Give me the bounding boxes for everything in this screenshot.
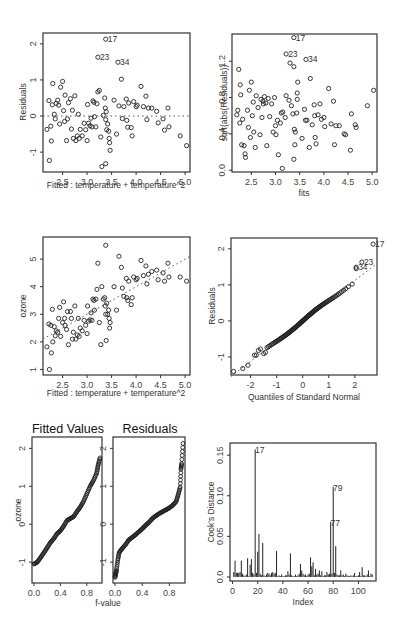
y-tick-label: 2	[98, 446, 108, 451]
data-point	[155, 109, 159, 113]
p2-xlabel: fits	[299, 188, 310, 198]
data-point	[292, 65, 296, 69]
data-point	[106, 122, 110, 126]
y-tick-label: 0.0	[217, 164, 227, 177]
data-point	[47, 367, 51, 371]
data-point	[62, 316, 66, 320]
data-point	[107, 308, 111, 312]
data-point	[68, 97, 72, 101]
data-point	[181, 450, 185, 454]
data-point	[162, 279, 166, 283]
y-tick-label: 2	[216, 246, 226, 251]
point-label: 17	[255, 445, 265, 455]
data-point	[284, 94, 288, 98]
data-point	[300, 136, 304, 140]
data-point	[181, 442, 185, 446]
data-point	[232, 369, 236, 373]
data-point	[114, 308, 118, 312]
data-point	[130, 296, 134, 300]
data-point	[256, 105, 260, 109]
plot-frame	[43, 237, 190, 375]
data-point	[162, 128, 166, 132]
data-point	[59, 85, 63, 89]
y-tick-label: -1	[28, 148, 38, 156]
data-point	[127, 101, 131, 105]
data-point	[85, 332, 89, 336]
x-tick-label: 1	[326, 380, 331, 390]
data-point	[241, 366, 245, 370]
y-tick-label: 1	[17, 484, 27, 489]
p6-xlabel: Index	[293, 597, 315, 607]
data-point	[107, 316, 111, 320]
y-tick-label: 0.0	[215, 571, 225, 584]
data-point	[45, 345, 49, 349]
data-point	[108, 148, 112, 152]
data-point	[51, 340, 55, 344]
scale-location-plot: 2.53.03.54.04.55.00.00.40.81.2172334	[217, 33, 378, 187]
data-point	[247, 88, 251, 92]
data-point	[150, 269, 154, 273]
data-point	[69, 127, 73, 131]
data-point	[161, 117, 165, 121]
data-point	[82, 318, 86, 322]
point-label: 17	[296, 33, 306, 43]
data-point	[85, 102, 89, 106]
data-point	[241, 117, 245, 121]
data-point	[144, 94, 148, 98]
data-point	[108, 141, 112, 145]
point-label: 17	[108, 34, 118, 44]
data-point	[117, 254, 121, 258]
plot-frame	[232, 34, 377, 172]
data-point	[184, 144, 188, 148]
data-point	[76, 316, 80, 320]
data-point	[313, 135, 317, 139]
data-point	[327, 86, 331, 90]
data-point	[292, 127, 296, 131]
x-tick-label: 0.4	[54, 588, 67, 598]
data-point	[104, 243, 108, 247]
x-tick-label: 2	[352, 380, 357, 390]
data-point	[348, 148, 352, 152]
data-point	[139, 258, 143, 262]
p5-title-right: Residuals	[123, 422, 178, 436]
data-point	[85, 138, 89, 142]
data-point	[318, 102, 322, 106]
x-tick-label: 5.0	[366, 177, 379, 187]
data-point	[130, 134, 134, 138]
data-point	[180, 454, 184, 458]
data-point	[166, 261, 170, 265]
data-point	[251, 100, 255, 104]
normal-qq-plot: -2-1012-1012172334	[216, 238, 385, 390]
data-point	[293, 143, 297, 147]
data-point	[49, 124, 53, 128]
data-point	[237, 67, 241, 71]
data-point	[69, 316, 73, 320]
p6-ylabel: Cook's Distance	[206, 481, 216, 542]
data-point	[68, 309, 72, 313]
data-point	[332, 143, 336, 147]
point-label: 79	[333, 483, 343, 493]
data-point	[100, 285, 104, 289]
data-point	[166, 106, 170, 110]
data-point	[253, 145, 257, 149]
plot-frame	[230, 443, 376, 581]
p5-ylabel: ozone	[13, 498, 23, 521]
data-point	[246, 363, 250, 367]
data-point	[289, 104, 293, 108]
p3-xlabel: Fitted : temperature + temperature^2	[47, 388, 186, 398]
x-tick-label: 40	[278, 586, 288, 596]
data-point	[119, 77, 123, 81]
y-tick-label: 5	[28, 257, 38, 262]
plot-frame	[113, 437, 185, 583]
data-point	[293, 130, 297, 134]
data-point	[117, 104, 121, 108]
y-tick-label: -1	[216, 353, 226, 361]
data-point	[238, 121, 242, 125]
data-point	[349, 112, 353, 116]
p4-ylabel: Residuals	[207, 287, 217, 324]
data-point	[245, 108, 249, 112]
data-point	[61, 109, 65, 113]
x-tick-label: 0.0	[28, 588, 41, 598]
data-point	[66, 343, 70, 347]
data-point	[127, 279, 131, 283]
